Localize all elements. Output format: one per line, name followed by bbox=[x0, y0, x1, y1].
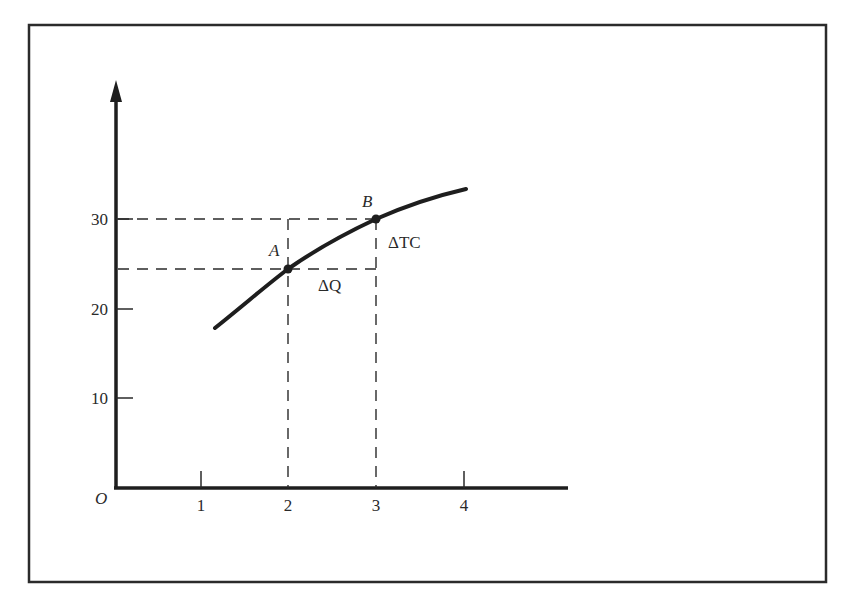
x-tick-label-3: 3 bbox=[372, 496, 381, 515]
dashed-guides bbox=[118, 219, 376, 488]
y-tick-label-20: 20 bbox=[91, 300, 108, 319]
x-ticks bbox=[201, 471, 464, 488]
total-cost-curve bbox=[215, 189, 466, 328]
y-tick-label-10: 10 bbox=[91, 389, 108, 408]
y-axis-arrow-icon bbox=[110, 80, 122, 102]
point-a-label: A bbox=[268, 241, 280, 260]
y-ticks bbox=[116, 219, 133, 398]
x-tick-label-2: 2 bbox=[284, 496, 293, 515]
point-a-marker bbox=[284, 265, 293, 274]
delta-q-label: ΔQ bbox=[318, 276, 341, 295]
x-tick-label-4: 4 bbox=[460, 496, 469, 515]
figure-frame bbox=[29, 25, 826, 582]
y-tick-label-30: 30 bbox=[91, 210, 108, 229]
delta-q-text: ΔQ bbox=[318, 276, 341, 295]
point-b-label: B bbox=[362, 192, 373, 211]
cost-curve-diagram: A B ΔQ ΔTC 10 20 30 1 2 3 4 O bbox=[0, 0, 849, 605]
delta-tc-text: ΔTC bbox=[388, 233, 421, 252]
point-b-marker bbox=[372, 215, 381, 224]
x-tick-label-1: 1 bbox=[197, 496, 206, 515]
origin-label: O bbox=[95, 489, 107, 508]
delta-tc-label: ΔTC bbox=[388, 233, 421, 252]
